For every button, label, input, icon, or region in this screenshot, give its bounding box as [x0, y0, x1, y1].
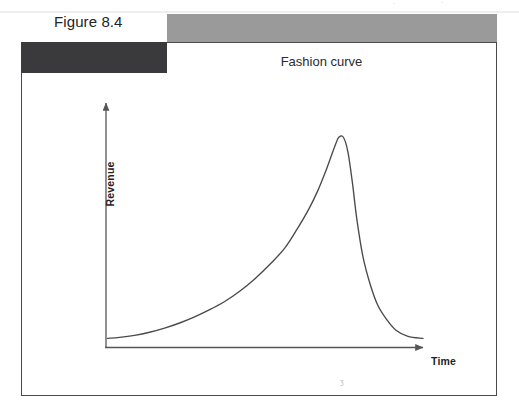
x-axis-label: Time — [431, 355, 456, 367]
figure-page: · · ʒ Figure 8.4 Fashion curve Revenue T… — [0, 0, 519, 419]
chart-title: Fashion curve — [0, 54, 519, 69]
fashion-curve-line — [108, 136, 423, 338]
chart-title-text: Fashion curve — [157, 54, 363, 69]
y-axis-label: Revenue — [104, 144, 116, 224]
